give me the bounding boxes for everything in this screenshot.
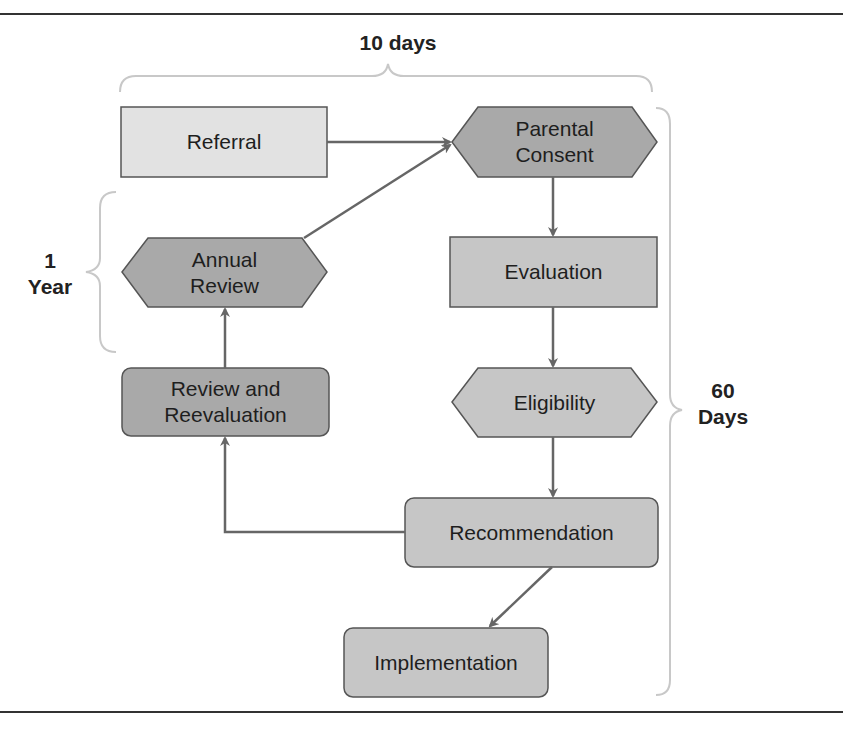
node-recommendation-label: Recommendation <box>449 520 614 546</box>
brace-60-days <box>656 108 682 695</box>
node-parental-consent-line1: Parental <box>515 116 593 142</box>
node-parental-consent[interactable]: Parental Consent <box>452 107 657 177</box>
label-60-days: 60 Days <box>688 378 758 431</box>
edge-recommendation-to-review <box>225 438 405 532</box>
node-review-reevaluation-line1: Review and <box>171 376 281 402</box>
node-review-reevaluation[interactable]: Review and Reevaluation <box>122 368 329 436</box>
node-review-reevaluation-line2: Reevaluation <box>164 402 287 428</box>
node-referral-label: Referral <box>187 129 262 155</box>
node-referral[interactable]: Referral <box>121 107 327 177</box>
node-annual-review-line2: Review <box>190 273 259 299</box>
label-60-days-unit: Days <box>688 404 758 430</box>
label-1-year-unit: Year <box>20 274 80 300</box>
node-parental-consent-line2: Consent <box>515 142 593 168</box>
node-implementation[interactable]: Implementation <box>344 628 548 697</box>
brace-1-year <box>86 192 116 352</box>
label-1-year: 1 Year <box>20 248 80 301</box>
label-10-days: 10 days <box>338 30 458 56</box>
node-evaluation-label: Evaluation <box>504 259 602 285</box>
label-60-days-number: 60 <box>688 378 758 404</box>
node-evaluation[interactable]: Evaluation <box>450 237 657 307</box>
node-recommendation[interactable]: Recommendation <box>405 498 658 567</box>
node-implementation-label: Implementation <box>374 650 518 676</box>
label-1-year-number: 1 <box>20 248 80 274</box>
brace-10-days <box>120 64 652 92</box>
edge-recommendation-to-implementation <box>490 567 552 626</box>
node-eligibility-label: Eligibility <box>514 390 596 416</box>
node-eligibility[interactable]: Eligibility <box>452 368 657 437</box>
node-annual-review-line1: Annual <box>192 247 257 273</box>
node-annual-review[interactable]: Annual Review <box>122 238 327 307</box>
